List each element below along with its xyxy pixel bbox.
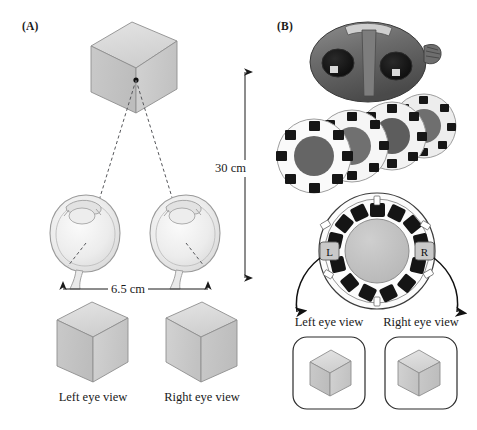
reel-frame [402, 214, 422, 234]
reel-inner-ring [325, 199, 429, 303]
reel-right-frame-label: R [421, 246, 429, 258]
panel-a-right-view-cube [166, 302, 237, 382]
left-view-arrow [296, 258, 320, 312]
right-eye-inner-globe [156, 203, 215, 266]
reel-frame [397, 273, 417, 293]
cube-right-face [201, 320, 237, 382]
cube-left-face [91, 46, 136, 113]
left-eye-iris-lower [96, 209, 101, 215]
left-eye-cornea [66, 200, 101, 214]
viewer-left-eyepiece [322, 49, 354, 77]
panel-b-right-view-box [385, 337, 457, 409]
figure-graphics: L R [0, 0, 477, 430]
reel-stack [276, 94, 456, 193]
view-master-photo [276, 22, 456, 193]
cube-top-face [166, 302, 237, 337]
right-view-frame [385, 337, 457, 409]
right-eye-iris-lower [196, 209, 201, 215]
panel-b-right-view-label: Right eye view [366, 315, 476, 330]
reel-left-frame-label: L [326, 246, 333, 258]
stimulus-cube [91, 22, 177, 113]
panel-a-left-view-label: Left eye view [38, 390, 148, 405]
reel-diagram: L R [296, 193, 457, 312]
reel-right-frame-badge: R [415, 242, 434, 260]
cube-top-face [398, 350, 440, 373]
viewer-body [310, 22, 426, 102]
reel-frames [327, 203, 430, 303]
right-eye-sclera [150, 195, 220, 272]
cube-right-face [330, 361, 351, 396]
left-eye-sclera [50, 195, 120, 272]
reel-notches [320, 196, 434, 306]
sight-line-right [136, 80, 186, 243]
panel-a-left-view-cube [57, 302, 128, 382]
cube-left-face [57, 320, 93, 382]
reel-left-frame-box [320, 242, 339, 260]
photo-reel [316, 110, 389, 182]
cube-right-face [136, 41, 177, 113]
reel-left-frame-badge: L [320, 242, 339, 260]
viewing-distance-label: 30 cm [212, 160, 249, 177]
viewer-center-ridge [362, 30, 376, 96]
left-eye-optic-nerve [70, 270, 83, 289]
reel-hub [345, 219, 409, 283]
viewer-lever-ridges [426, 47, 440, 58]
reel-outer-edge [319, 193, 435, 309]
panel-b-left-view-box [293, 337, 365, 409]
cube-top-face [91, 22, 177, 68]
viewer-right-eyepiece [380, 52, 412, 80]
right-view-arrow [434, 258, 458, 312]
left-eye-inner-globe [56, 203, 115, 266]
reel-frame [334, 213, 354, 233]
left-view-frame [293, 337, 365, 409]
interocular-distance-label: 6.5 cm [108, 281, 148, 298]
reel-frame [370, 203, 385, 217]
figure-root: (A) (B) [0, 0, 477, 430]
sight-line-left [86, 80, 136, 243]
right-eye-optical-axis [186, 243, 204, 266]
photo-reel [276, 119, 353, 193]
cube-top-face [310, 350, 351, 373]
reel-frame [358, 283, 378, 302]
cube-right-face [419, 362, 440, 396]
viewer-right-eyepiece-glint [392, 69, 400, 76]
right-eye-cornea [166, 200, 201, 214]
right-eye [150, 195, 220, 289]
reel-frame [379, 284, 399, 303]
reel-frame [350, 203, 370, 222]
right-eye-lens [169, 208, 195, 224]
cube-left-face [166, 318, 201, 382]
left-eye-iris-upper [64, 210, 69, 216]
panel-a-label: (A) [22, 20, 39, 32]
fixation-point [133, 77, 138, 82]
left-eye-optical-axis [68, 243, 86, 266]
reel-right-frame-box [415, 242, 434, 260]
photo-reel [392, 94, 456, 158]
panel-a-right-view-label: Right eye view [147, 390, 257, 405]
cube-top-face [57, 302, 128, 337]
left-eye [50, 195, 120, 289]
reel-frame [329, 256, 346, 274]
reel-frame [413, 233, 430, 251]
right-eye-iris-upper [164, 210, 169, 216]
cube-right-face [93, 318, 128, 382]
sight-lines [86, 80, 186, 243]
reel-frame [327, 232, 344, 250]
reel-frame [340, 272, 360, 292]
reel-frame [387, 204, 407, 223]
panel-b-label: (B) [277, 20, 293, 32]
cube-left-face [310, 362, 330, 396]
reel-frame [409, 257, 426, 275]
viewer-left-eyepiece-glint [330, 66, 338, 73]
right-eye-optic-nerve [170, 270, 183, 289]
cube-left-face [398, 361, 419, 396]
photo-reel [358, 102, 427, 170]
left-eye-lens [69, 208, 95, 224]
viewer-advance-lever [424, 44, 441, 63]
viewer-reel-slot [345, 23, 392, 36]
